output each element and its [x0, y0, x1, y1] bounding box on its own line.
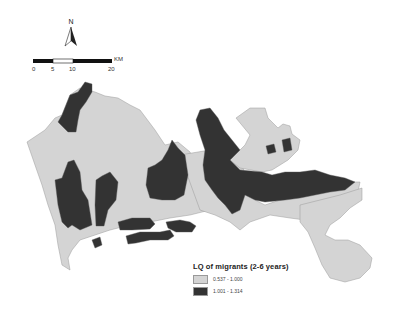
scale-tick-0: 0 [32, 66, 35, 72]
legend-item-low: 0.537 - 1.000 [193, 274, 289, 284]
legend-swatch-low [193, 275, 208, 284]
legend-label-low: 0.537 - 1.000 [213, 276, 242, 282]
scale-tick-20: 20 [108, 66, 115, 72]
legend-swatch-high [193, 287, 208, 296]
legend: LQ of migrants (2-6 years) 0.537 - 1.000… [193, 262, 289, 298]
north-label: N [66, 18, 76, 25]
legend-item-high: 1.001 - 1.314 [193, 286, 289, 296]
scale-unit: KM [114, 56, 123, 62]
scale-tick-10: 10 [69, 66, 76, 72]
scale-tick-5: 5 [51, 66, 54, 72]
north-arrow: N [66, 18, 76, 25]
legend-label-high: 1.001 - 1.314 [213, 288, 242, 294]
north-arrow-icon [64, 27, 78, 47]
legend-title: LQ of migrants (2-6 years) [193, 262, 289, 271]
scale-bar [33, 58, 143, 66]
